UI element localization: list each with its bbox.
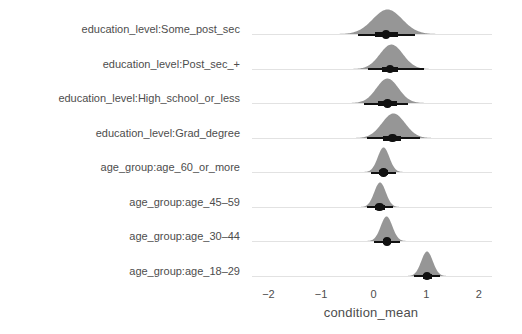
x-axis-tick-label: −2 — [262, 288, 275, 300]
y-axis-tick-label: education_level:Grad_degree — [96, 126, 240, 140]
chart-row — [250, 112, 492, 146]
chart-row — [250, 77, 492, 111]
y-axis-tick-label: age_group:age_60_or_more — [101, 160, 240, 174]
y-axis-tick-label: age_group:age_45–59 — [129, 195, 240, 209]
point-estimate-marker — [386, 65, 394, 73]
x-axis-tick-label: 0 — [371, 288, 377, 300]
point-estimate-marker — [383, 99, 391, 107]
chart-row — [250, 181, 492, 215]
x-axis-tick-label: 2 — [476, 288, 482, 300]
chart-row — [250, 8, 492, 42]
point-estimate-marker — [382, 30, 390, 38]
y-axis-tick-label: age_group:age_18–29 — [129, 264, 240, 278]
x-axis-tick-labels: −2−1012 — [250, 288, 492, 302]
y-axis-tick-label: education_level:High_school_or_less — [58, 91, 240, 105]
chart-row — [250, 146, 492, 180]
plot-panel — [250, 8, 492, 284]
point-estimate-marker — [388, 134, 396, 142]
point-estimate-marker — [379, 168, 387, 176]
point-estimate-marker — [423, 272, 431, 280]
y-axis-tick-label: age_group:age_30–44 — [129, 229, 240, 243]
chart-row — [250, 250, 492, 284]
row-baseline — [252, 241, 492, 242]
y-axis-tick-label: education_level:Some_post_sec — [82, 22, 240, 36]
halfeye-ridgeline-chart: group education_level:Some_post_seceduca… — [0, 0, 522, 334]
point-estimate-marker — [375, 203, 383, 211]
row-baseline — [252, 276, 492, 277]
y-axis-tick-labels: education_level:Some_post_seceducation_l… — [22, 8, 244, 284]
x-axis-tick-label: −1 — [315, 288, 328, 300]
x-axis-tick-label: 1 — [423, 288, 429, 300]
y-axis-tick-label: education_level:Post_sec_+ — [103, 57, 240, 71]
point-estimate-marker — [383, 237, 391, 245]
x-axis-title: condition_mean — [250, 305, 492, 320]
chart-row — [250, 215, 492, 249]
chart-row — [250, 43, 492, 77]
